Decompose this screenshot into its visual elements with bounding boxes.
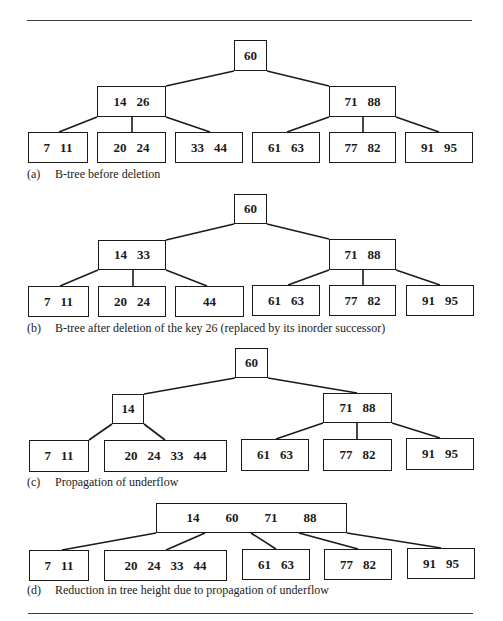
node-key: 95 (446, 556, 459, 572)
tree-edge (166, 117, 210, 132)
btree-deletion-figure: 601426718871120243344616377829195(a)B-tr… (0, 0, 503, 621)
node-key: 88 (363, 400, 376, 416)
node-key: 63 (291, 140, 304, 156)
tree-edge (251, 533, 276, 549)
btree-node-a-l3: 3344 (175, 132, 243, 163)
node-key: 7 (45, 448, 52, 464)
node-key: 60 (245, 355, 258, 371)
node-key: 7 (44, 294, 51, 310)
node-key: 20 (114, 140, 127, 156)
tree-edge (144, 378, 235, 394)
tree-edge (287, 117, 329, 132)
node-key: 95 (444, 140, 457, 156)
caption-b: (b)B-tree after deletion of the key 26 (… (27, 321, 385, 336)
btree-node-d-l5: 7782 (324, 549, 392, 580)
node-key: 77 (340, 557, 353, 573)
node-key: 88 (368, 94, 381, 110)
node-key: 82 (363, 447, 376, 463)
node-key: 61 (268, 293, 281, 309)
node-key: 7 (44, 140, 51, 156)
node-key: 44 (194, 558, 207, 574)
node-key: 82 (368, 293, 381, 309)
caption-tag: (b) (27, 321, 55, 336)
btree-node-d-root: 14607188 (156, 503, 347, 533)
btree-node-b-l5: 7782 (329, 285, 396, 316)
tree-edge (299, 533, 358, 549)
btree-node-a-l6: 9195 (405, 132, 473, 163)
tree-edge (396, 270, 440, 285)
node-key: 63 (281, 557, 294, 573)
btree-node-b-l1: 711 (28, 286, 89, 317)
btree-node-c-l1: 711 (29, 440, 89, 472)
btree-node-c-root: 60 (235, 348, 268, 378)
tree-edge (392, 423, 440, 438)
btree-node-a-l2: 2024 (97, 132, 166, 163)
caption-text: Propagation of underflow (55, 475, 178, 489)
node-key: 61 (268, 140, 281, 156)
tree-edge (347, 533, 441, 548)
node-key: 71 (345, 247, 358, 263)
btree-node-d-l1: 711 (29, 550, 89, 581)
btree-node-c-l5: 7782 (323, 439, 392, 471)
node-key: 11 (61, 448, 73, 464)
node-key: 82 (368, 140, 381, 156)
node-key: 91 (422, 446, 435, 462)
btree-node-c-L: 14 (112, 394, 144, 424)
node-key: 77 (345, 293, 358, 309)
node-key: 88 (368, 247, 381, 263)
tree-edge (89, 424, 112, 440)
btree-node-b-L: 1433 (98, 240, 166, 270)
tree-edge (60, 270, 98, 286)
tree-edge (62, 533, 156, 550)
node-key: 24 (137, 294, 150, 310)
btree-node-c-R: 7188 (323, 393, 392, 423)
btree-node-c-l2: 20243344 (104, 440, 227, 472)
node-key: 95 (445, 293, 458, 309)
node-key: 33 (171, 558, 184, 574)
node-key: 24 (137, 140, 150, 156)
node-key: 14 (122, 401, 135, 417)
btree-node-a-L: 1426 (97, 86, 166, 117)
node-key: 91 (421, 140, 434, 156)
btree-node-b-l2: 2024 (98, 286, 166, 317)
node-key: 44 (214, 140, 227, 156)
tree-edge (288, 270, 329, 285)
node-key: 60 (244, 201, 257, 217)
btree-node-a-root: 60 (234, 40, 267, 71)
tree-edge (268, 378, 357, 393)
node-key: 77 (345, 140, 358, 156)
bottom-rule (28, 613, 473, 614)
node-key: 14 (114, 94, 127, 110)
node-key: 60 (226, 510, 239, 526)
btree-node-a-R: 7188 (329, 86, 396, 117)
caption-tag: (d) (27, 583, 55, 598)
node-key: 11 (61, 558, 73, 574)
btree-node-d-l4: 6163 (242, 549, 310, 580)
node-key: 26 (137, 94, 150, 110)
node-key: 33 (191, 140, 204, 156)
node-key: 44 (194, 448, 207, 464)
node-key: 11 (60, 140, 72, 156)
node-key: 14 (187, 510, 200, 526)
node-key: 61 (258, 557, 271, 573)
btree-node-c-l4: 6163 (241, 439, 309, 471)
node-key: 71 (265, 510, 278, 526)
btree-node-d-l6: 9195 (407, 548, 475, 579)
node-key: 33 (171, 448, 184, 464)
btree-node-d-l2: 20243344 (104, 550, 227, 581)
node-key: 14 (114, 247, 127, 263)
node-key: 91 (423, 556, 436, 572)
top-rule (27, 20, 472, 21)
tree-edge (144, 424, 165, 440)
node-key: 60 (244, 48, 257, 64)
btree-node-c-l6: 9195 (406, 438, 474, 470)
btree-node-b-l3: 44 (175, 286, 244, 317)
node-key: 20 (125, 558, 138, 574)
btree-node-a-l1: 711 (28, 132, 88, 163)
node-key: 20 (114, 294, 127, 310)
btree-node-b-root: 60 (234, 194, 267, 224)
tree-edge (166, 224, 234, 240)
tree-edge (276, 423, 323, 439)
node-key: 61 (257, 447, 270, 463)
node-key: 95 (445, 446, 458, 462)
